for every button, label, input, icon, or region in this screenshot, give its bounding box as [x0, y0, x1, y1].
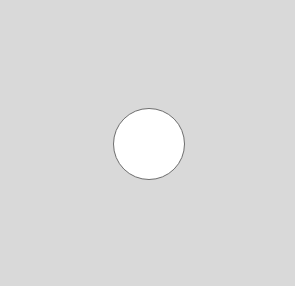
canvas: [0, 0, 300, 290]
white-circle: [113, 108, 185, 180]
gray-square-panel: [0, 0, 295, 286]
